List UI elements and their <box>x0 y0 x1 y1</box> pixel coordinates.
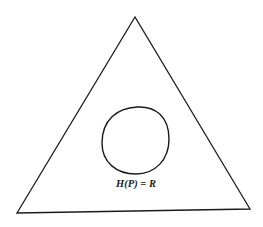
diagram-canvas <box>0 0 263 227</box>
inner-closed-curve <box>102 107 169 174</box>
region-label: H(P) = R <box>108 178 164 189</box>
